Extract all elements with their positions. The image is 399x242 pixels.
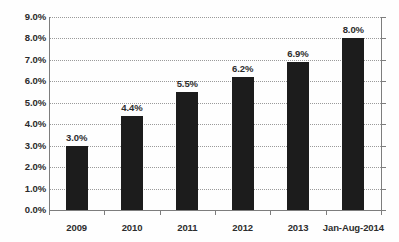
x-axis-tick — [215, 210, 216, 215]
y-axis-tick-label: 0.0% — [0, 205, 46, 215]
x-axis-tick — [381, 210, 382, 215]
x-axis-tick — [160, 210, 161, 215]
y-axis-tick-label: 3.0% — [0, 141, 46, 151]
x-axis-tick — [326, 210, 327, 215]
bar-series — [49, 17, 381, 210]
bar-value-label: 8.0% — [323, 24, 383, 35]
y-axis-tick-labels: 0.0%1.0%2.0%3.0%4.0%5.0%6.0%7.0%8.0%9.0% — [0, 0, 46, 242]
bar — [287, 62, 309, 210]
bar-value-label: 6.9% — [268, 48, 328, 59]
y-axis-line-right — [381, 17, 382, 210]
y-axis-tick-label: 4.0% — [0, 119, 46, 129]
bar — [121, 116, 143, 210]
bar-value-label: 6.2% — [213, 63, 273, 74]
bar-value-label: 3.0% — [47, 132, 107, 143]
bar — [66, 146, 88, 210]
y-axis-tick-label: 9.0% — [0, 12, 46, 22]
right-axis-tick — [381, 17, 386, 18]
right-axis-tick — [381, 124, 386, 125]
right-axis-tick — [381, 60, 386, 61]
x-axis-tick — [104, 210, 105, 215]
right-axis-tick — [381, 146, 386, 147]
bar-chart: 0.0%1.0%2.0%3.0%4.0%5.0%6.0%7.0%8.0%9.0%… — [0, 0, 399, 242]
bar — [342, 38, 364, 210]
right-axis-tick — [381, 103, 386, 104]
y-axis-tick-label: 2.0% — [0, 162, 46, 172]
bar-value-label: 4.4% — [102, 102, 162, 113]
bar — [176, 92, 198, 210]
y-axis-tick-label: 1.0% — [0, 184, 46, 194]
right-axis-tick — [381, 38, 386, 39]
x-axis-category-label: Jan-Aug-2014 — [308, 222, 398, 233]
right-axis-tick — [381, 189, 386, 190]
y-axis-tick-label: 6.0% — [0, 76, 46, 86]
y-axis-tick-label: 5.0% — [0, 98, 46, 108]
bar — [232, 77, 254, 210]
x-axis-tick — [270, 210, 271, 215]
y-axis-tick-label: 7.0% — [0, 55, 46, 65]
y-axis-tick-label: 8.0% — [0, 33, 46, 43]
right-axis-tick — [381, 167, 386, 168]
bar-value-label: 5.5% — [157, 78, 217, 89]
x-axis-tick — [49, 210, 50, 215]
right-axis-tick — [381, 81, 386, 82]
